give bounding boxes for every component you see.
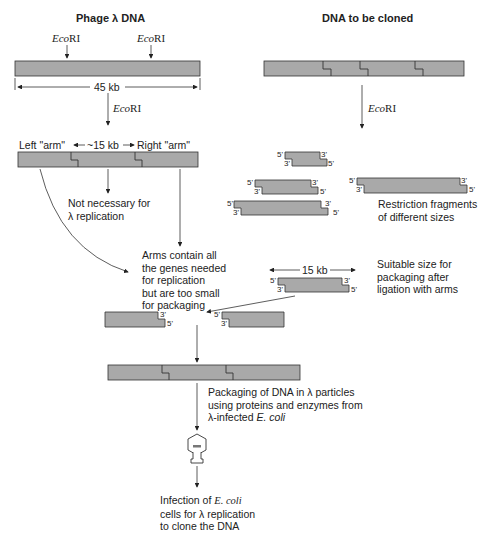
right-arm-label: Right "arm" <box>137 139 190 152</box>
end-3-label: 3' <box>321 150 327 159</box>
end-3-label: 3' <box>312 178 318 187</box>
ecori-label-4: EcoRI <box>368 102 396 115</box>
end-5-label: 5' <box>349 176 355 185</box>
title-phage-dna: Phage λ DNA <box>76 12 145 25</box>
end-3-label: 3' <box>277 285 283 294</box>
arms-note: Arms contain allthe genes neededfor repl… <box>142 249 226 312</box>
end-5-label: 5' <box>227 199 233 208</box>
end-3-label: 3' <box>160 310 166 319</box>
middle-15kb-label: ~15 kb <box>87 139 119 152</box>
fragment-right <box>357 178 467 193</box>
target-dna-bar <box>264 61 464 76</box>
end-5-label: 5' <box>351 285 357 294</box>
end-5-label: 5' <box>328 159 334 168</box>
left-arm-label: Left "arm" <box>19 139 65 152</box>
ecori-label-3: EcoRI <box>113 102 141 115</box>
end-5-label: 5' <box>270 276 276 285</box>
end-5-label: 5' <box>277 150 283 159</box>
not-necessary-note: Not necessary forλ replication <box>68 197 150 222</box>
insert-15kb-label: 15 kb <box>302 264 328 277</box>
end-5-label: 5' <box>333 208 339 217</box>
phage-dna-bar <box>15 61 200 76</box>
packaging-note: Packaging of DNA in λ particlesusing pro… <box>208 386 363 424</box>
end-3-label: 3' <box>325 199 331 208</box>
end-5-label: 5' <box>320 187 326 196</box>
end-3-label: 3' <box>461 176 467 185</box>
end-5-label: 5' <box>247 178 253 187</box>
ecori-label-1: EcoRI <box>52 32 80 45</box>
end-5-label: 5' <box>167 319 173 328</box>
end-3-label: 3' <box>344 276 350 285</box>
phage-particle-icon <box>188 434 206 463</box>
end-3-label: 3' <box>254 187 260 196</box>
recombinant-dna-bar <box>108 365 300 380</box>
end-3-label: 3' <box>356 185 362 194</box>
title-dna-to-be-cloned: DNA to be cloned <box>322 12 413 25</box>
end-3-label: 3' <box>221 319 227 328</box>
infection-note: Infection of E. coli cells for λ replica… <box>160 494 255 533</box>
fragment-15kb <box>278 278 349 292</box>
suitable-size-note: Suitable size forpackaging afterligation… <box>377 258 458 296</box>
restriction-fragments-note: Restriction fragmentsof different sizes <box>378 198 477 223</box>
end-5-label: 5' <box>469 185 475 194</box>
right-arm-piece <box>222 312 284 327</box>
end-3-label: 3' <box>284 159 290 168</box>
cut-phage-bar <box>18 152 198 167</box>
left-arm-piece <box>105 312 165 327</box>
length-45kb-label: 45 kb <box>94 81 120 94</box>
end-5-label: 5' <box>214 310 220 319</box>
fragment-large <box>234 201 328 215</box>
end-3-label: 3' <box>233 208 239 217</box>
fragment-medium <box>255 180 318 194</box>
ecori-label-2: EcoRI <box>137 32 165 45</box>
